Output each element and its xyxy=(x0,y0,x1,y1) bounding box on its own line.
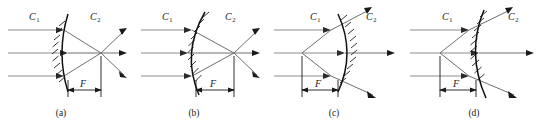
panel-b: C1 C2 xyxy=(133,0,268,125)
focal-label-d: F xyxy=(452,78,460,89)
label-medium-left-c: C1 xyxy=(310,11,320,23)
figure-root: C1 C2 xyxy=(0,0,542,125)
ray-arrow-c2 xyxy=(337,50,345,56)
out-arrow-a3 xyxy=(119,71,127,78)
refracted-rays-b xyxy=(188,28,260,78)
label-medium-left-b: C1 xyxy=(162,11,172,23)
label-medium-right-a: C2 xyxy=(90,11,100,23)
focal-dimension-a: F xyxy=(67,56,102,97)
ray-arrow-d3 xyxy=(461,73,469,79)
panel-c: C1 C2 xyxy=(268,0,403,125)
ray-arrow-d1 xyxy=(461,27,469,33)
incoming-rays-b xyxy=(141,27,192,79)
incoming-rays-c xyxy=(274,27,345,79)
focal-label-a: F xyxy=(79,78,87,89)
ray-arrow-c1 xyxy=(323,27,331,33)
out-arrow-d2 xyxy=(526,50,534,56)
ray-arrow-c3 xyxy=(323,73,331,79)
caption-c: (c) xyxy=(329,108,340,119)
out-arrow-a2 xyxy=(119,50,127,56)
ray-arrow-b3 xyxy=(184,73,192,79)
ray-arrow-b2 xyxy=(180,50,188,56)
label-medium-left-a: C1 xyxy=(29,11,39,23)
label-medium-left-d: C1 xyxy=(442,11,452,23)
out-arrow-c2 xyxy=(387,50,395,56)
focal-dimension-b: F xyxy=(195,56,235,97)
hatching-b xyxy=(188,12,210,81)
incoming-rays-a xyxy=(8,27,68,79)
caption-b: (b) xyxy=(188,108,199,119)
panel-a: C1 C2 xyxy=(0,0,135,125)
hatching-d xyxy=(470,11,487,80)
diverging-rays-d xyxy=(469,7,534,98)
out-arrow-b3 xyxy=(252,71,260,78)
out-arrow-d3 xyxy=(508,91,517,98)
out-arrow-b2 xyxy=(252,50,260,56)
label-medium-right-d: C2 xyxy=(508,11,518,23)
refracted-rays-a xyxy=(64,28,127,78)
incoming-rays-d xyxy=(410,27,479,79)
ray-arrow-b1 xyxy=(184,27,192,33)
panel-d: C1 C2 xyxy=(404,0,542,125)
focal-label-c: F xyxy=(314,78,322,89)
caption-d: (d) xyxy=(468,108,479,119)
out-arrow-c3 xyxy=(367,91,376,98)
focal-label-b: F xyxy=(209,78,217,89)
surface-curve-d xyxy=(475,10,486,98)
ray-arrow-a2 xyxy=(60,50,68,56)
label-medium-right-b: C2 xyxy=(225,11,235,23)
caption-a: (a) xyxy=(56,108,67,119)
